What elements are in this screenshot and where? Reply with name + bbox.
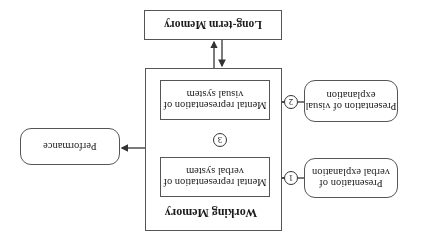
visual-representation-label: Mental representation of visual system [161,89,269,111]
long-term-memory-label: Long-term Memory [164,19,262,31]
step-2-badge: 2 [284,95,298,109]
diagram-canvas: Long-term Memory Working Memory Mental r… [0,0,426,247]
visual-presentation-label: Presentation of visual explanation [305,90,397,112]
long-term-memory-box: Long-term Memory [144,10,282,40]
visual-presentation-box: Presentation of visual explanation [304,80,398,122]
verbal-presentation-box: Presentation of verbal explanation [304,158,398,198]
verbal-representation-box: Mental representation of verbal system [160,157,270,197]
verbal-representation-label: Mental representation of verbal system [161,166,269,188]
step-1-badge: 1 [284,171,298,185]
performance-box: Performance [20,128,120,165]
verbal-presentation-label: Presentation of verbal explanation [305,167,397,189]
performance-label: Performance [43,141,97,152]
visual-representation-box: Mental representation of visual system [160,80,270,120]
working-memory-label: Working Memory [156,205,266,220]
step-3-badge: 3 [213,133,227,147]
